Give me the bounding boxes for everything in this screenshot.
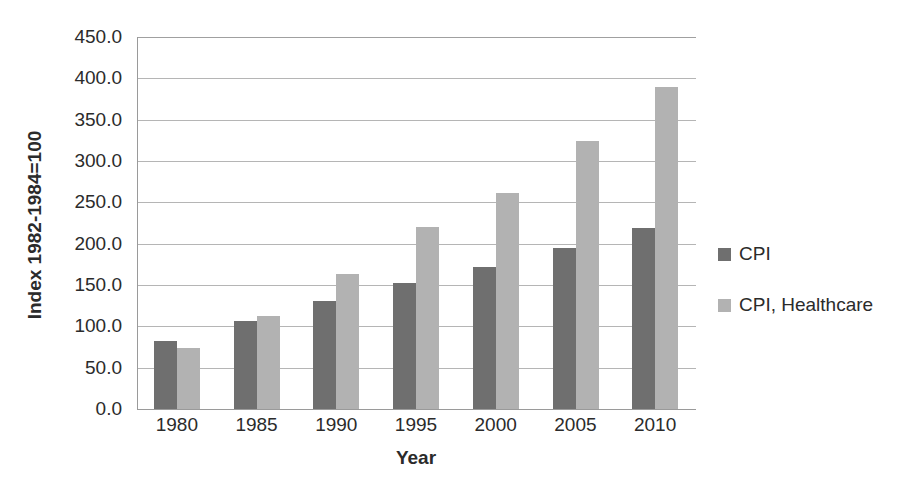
bars-layer	[138, 37, 696, 409]
bar[interactable]	[496, 193, 519, 409]
y-tick-label: 200.0	[74, 233, 122, 255]
y-tick-label: 0.0	[96, 398, 122, 420]
bar[interactable]	[257, 316, 280, 409]
plot-area	[137, 37, 696, 410]
bar[interactable]	[553, 248, 576, 409]
legend-label: CPI	[739, 243, 771, 265]
bar-group	[457, 37, 537, 409]
legend-swatch-icon	[718, 248, 731, 261]
y-tick-label: 300.0	[74, 150, 122, 172]
chart-legend: CPICPI, Healthcare	[718, 243, 898, 345]
bar-group	[616, 37, 696, 409]
bar[interactable]	[234, 321, 257, 409]
bar-group	[537, 37, 617, 409]
x-tick-label: 2010	[615, 414, 695, 436]
x-tick-label: 1985	[217, 414, 297, 436]
bar[interactable]	[177, 348, 200, 409]
y-tick-label: 400.0	[74, 67, 122, 89]
bar[interactable]	[416, 227, 439, 409]
y-axis-tick-labels: 0.050.0100.0150.0200.0250.0300.0350.0400…	[36, 37, 130, 409]
x-tick-label: 1995	[376, 414, 456, 436]
bar[interactable]	[393, 283, 416, 409]
bar-group	[138, 37, 218, 409]
bar[interactable]	[655, 87, 678, 409]
bar-group	[297, 37, 377, 409]
y-tick-label: 100.0	[74, 315, 122, 337]
x-axis-title: Year	[137, 447, 695, 469]
y-tick-label: 50.0	[85, 357, 122, 379]
bar[interactable]	[473, 267, 496, 409]
y-tick-label: 150.0	[74, 274, 122, 296]
x-tick-label: 1980	[137, 414, 217, 436]
bar[interactable]	[313, 301, 336, 409]
bar[interactable]	[632, 228, 655, 409]
y-tick-label: 450.0	[74, 26, 122, 48]
legend-label: CPI, Healthcare	[739, 294, 873, 316]
y-tick-label: 350.0	[74, 109, 122, 131]
bar-chart: Index 1982-1984=100 0.050.0100.0150.0200…	[0, 0, 904, 500]
x-axis-tick-labels: 1980198519901995200020052010	[137, 414, 695, 442]
x-tick-label: 2005	[536, 414, 616, 436]
legend-item[interactable]: CPI, Healthcare	[718, 294, 898, 316]
x-tick-label: 2000	[456, 414, 536, 436]
bar[interactable]	[154, 341, 177, 409]
bar-group	[218, 37, 298, 409]
bar[interactable]	[336, 274, 359, 409]
x-tick-label: 1990	[296, 414, 376, 436]
y-tick-label: 250.0	[74, 191, 122, 213]
bar-group	[377, 37, 457, 409]
legend-item[interactable]: CPI	[718, 243, 898, 265]
legend-swatch-icon	[718, 299, 731, 312]
bar[interactable]	[576, 141, 599, 409]
